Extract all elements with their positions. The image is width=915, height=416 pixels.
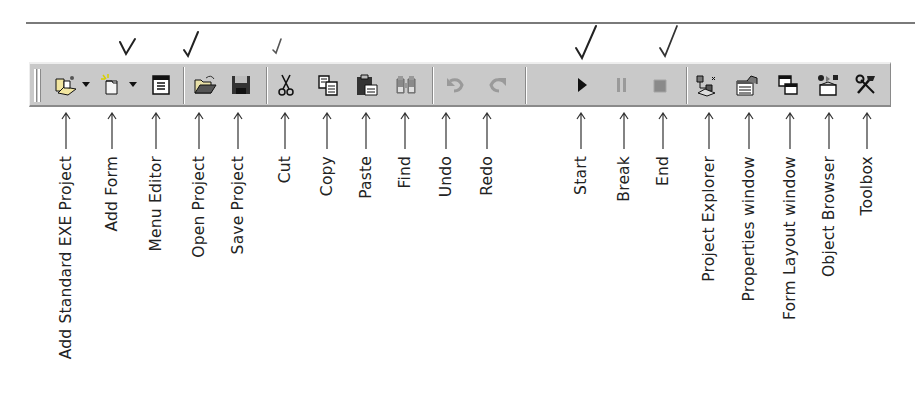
- callout-label-form-layout-window: Form Layout window: [781, 156, 799, 320]
- callout-label-end: End: [654, 156, 672, 186]
- end-button[interactable]: [646, 71, 674, 99]
- form-layout-window-button[interactable]: [774, 71, 802, 99]
- callout-label-break: Break: [615, 156, 633, 202]
- callout-arrow-icon: [744, 112, 754, 150]
- callout-arrow-icon: [441, 112, 451, 150]
- callout-arrow-icon: [151, 112, 161, 150]
- callout-arrow-icon: [400, 112, 410, 150]
- menu-editor-icon: [149, 73, 173, 97]
- cut-button[interactable]: [272, 71, 300, 99]
- callout-label-paste: Paste: [357, 156, 375, 199]
- form-layout-icon: [776, 73, 800, 97]
- clipboard-icon: [355, 73, 379, 97]
- callout-label-add-form: Add Form: [103, 156, 121, 232]
- callout-arrow-icon: [482, 112, 492, 150]
- callout-arrow-icon: [576, 112, 586, 150]
- copy-icon: [316, 73, 340, 97]
- callout-arrow-icon: [824, 112, 834, 150]
- callout-arrow-icon: [107, 112, 117, 150]
- find-button[interactable]: [392, 71, 420, 99]
- undo-icon: [444, 73, 468, 97]
- stop-icon: [648, 73, 672, 97]
- callout-label-redo: Redo: [478, 156, 496, 196]
- object-browser-button[interactable]: [814, 71, 842, 99]
- floppy-disk-icon: [229, 73, 253, 97]
- callout-label-find: Find: [396, 156, 414, 189]
- properties-window-button[interactable]: [733, 71, 761, 99]
- callout-label-start: Start: [572, 156, 590, 195]
- callout-label-copy: Copy: [318, 156, 336, 196]
- paste-button[interactable]: [353, 71, 381, 99]
- object-browser-icon: [816, 73, 840, 97]
- add-form-icon: [100, 73, 124, 97]
- checkmark-icon: [117, 30, 141, 58]
- standard-toolbar: [29, 62, 891, 107]
- callout-arrow-icon: [280, 112, 290, 150]
- redo-icon: [485, 73, 509, 97]
- play-icon: [570, 73, 594, 97]
- add-standard-exe-project-button[interactable]: [52, 71, 80, 99]
- break-button[interactable]: [607, 71, 635, 99]
- toolbar-separator: [183, 67, 185, 104]
- binoculars-icon: [394, 73, 418, 97]
- save-project-button[interactable]: [227, 71, 255, 99]
- callout-arrow-icon: [233, 112, 243, 150]
- callout-label-menu-editor: Menu Editor: [147, 156, 165, 252]
- checkmark-icon: [268, 30, 292, 58]
- callout-arrow-icon: [862, 112, 872, 150]
- toolbar-separator: [432, 67, 434, 104]
- top-rule: [26, 22, 915, 24]
- open-folder-icon: [193, 73, 217, 97]
- callout-arrow-icon: [61, 112, 71, 150]
- checkmark-icon: [657, 30, 681, 58]
- redo-button[interactable]: [483, 71, 511, 99]
- add-project-icon: [54, 73, 78, 97]
- menu-editor-button[interactable]: [147, 71, 175, 99]
- callout-arrow-icon: [785, 112, 795, 150]
- project-explorer-button[interactable]: [693, 71, 721, 99]
- toolbar-grip-handle[interactable]: [34, 69, 42, 102]
- toolbox-icon: [854, 73, 878, 97]
- checkmark-icon: [574, 30, 598, 58]
- checkmark-icon: [180, 30, 204, 58]
- callout-label-save-project: Save Project: [229, 156, 247, 254]
- callout-label-add-standard-exe-project: Add Standard EXE Project: [57, 156, 75, 359]
- project-explorer-icon: [695, 73, 719, 97]
- toolbar-separator: [266, 67, 268, 104]
- properties-icon: [735, 73, 759, 97]
- chevron-down-icon[interactable]: [82, 82, 90, 88]
- callout-label-properties-window: Properties window: [740, 156, 758, 301]
- callout-arrow-icon: [704, 112, 714, 150]
- callout-arrow-icon: [658, 112, 668, 150]
- callout-label-undo: Undo: [437, 156, 455, 197]
- pause-icon: [609, 73, 633, 97]
- copy-button[interactable]: [314, 71, 342, 99]
- callout-label-project-explorer: Project Explorer: [700, 156, 718, 282]
- callout-label-open-project: Open Project: [190, 156, 208, 258]
- scissors-icon: [274, 73, 298, 97]
- callout-label-cut: Cut: [276, 156, 294, 183]
- callout-arrow-icon: [361, 112, 371, 150]
- undo-button[interactable]: [442, 71, 470, 99]
- callout-label-object-browser: Object Browser: [820, 156, 838, 277]
- toolbar-separator: [686, 67, 688, 104]
- callout-label-toolbox: Toolbox: [858, 156, 876, 216]
- toolbox-button[interactable]: [852, 71, 880, 99]
- chevron-down-icon[interactable]: [129, 82, 137, 88]
- start-button[interactable]: [568, 71, 596, 99]
- callout-arrow-icon: [194, 112, 204, 150]
- open-project-button[interactable]: [191, 71, 219, 99]
- toolbar-separator: [525, 67, 527, 104]
- callout-arrow-icon: [322, 112, 332, 150]
- callout-arrow-icon: [619, 112, 629, 150]
- add-form-button[interactable]: [98, 71, 126, 99]
